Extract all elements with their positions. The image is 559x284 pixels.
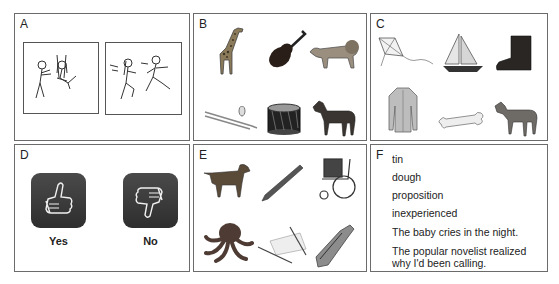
goat-icon xyxy=(493,100,541,140)
running-scene-picture xyxy=(105,42,182,115)
swing-scene-icon xyxy=(24,43,98,113)
swing-scene-picture xyxy=(23,42,99,114)
stimulus-word: proposition xyxy=(392,189,443,201)
trombone-icon xyxy=(202,106,262,132)
stimulus-sentence: The baby cries in the night. xyxy=(392,226,518,238)
hammock-icon xyxy=(256,225,312,265)
stimulus-word: inexperienced xyxy=(392,207,457,219)
panel-e: E xyxy=(193,144,367,272)
thumbs-down-button[interactable] xyxy=(123,173,178,228)
panel-letter: E xyxy=(199,148,207,162)
boot-icon xyxy=(493,34,535,78)
panel-a: A xyxy=(14,13,190,141)
panel-b: B xyxy=(193,13,367,141)
panel-letter: B xyxy=(199,17,207,31)
stimulus-word: dough xyxy=(392,171,421,183)
no-label: No xyxy=(123,235,178,247)
horse-icon xyxy=(309,99,359,139)
yes-label: Yes xyxy=(31,235,86,247)
panel-letter: F xyxy=(376,148,383,162)
panel-letter: C xyxy=(376,17,385,31)
kite-icon xyxy=(377,36,435,72)
panel-letter: D xyxy=(20,148,29,162)
panel-d: D Yes No xyxy=(14,144,190,272)
panel-letter: A xyxy=(20,17,28,31)
octopus-icon xyxy=(202,219,254,265)
coat-icon xyxy=(387,86,419,134)
thumbs-down-icon xyxy=(123,173,178,228)
violin-icon xyxy=(262,28,308,72)
lion-icon xyxy=(306,32,362,72)
thumbs-up-icon xyxy=(31,173,86,228)
escalator-icon xyxy=(314,223,358,269)
bone-icon xyxy=(437,110,485,132)
giraffe-icon xyxy=(212,24,248,80)
stimulus-word: tin xyxy=(392,153,403,165)
thumbs-up-button[interactable] xyxy=(31,173,86,228)
dog-icon xyxy=(202,161,252,201)
stimulus-sentence: The popular novelist realized xyxy=(392,245,526,257)
panel-c: C xyxy=(370,13,548,141)
running-scene-icon xyxy=(106,43,181,114)
wheelchair-icon xyxy=(314,155,360,203)
panel-f: F tin dough proposition inexperienced Th… xyxy=(370,144,548,272)
sailboat-icon xyxy=(441,32,487,78)
stimulus-sentence-continued: why I'd been calling. xyxy=(392,257,486,269)
pencil-icon xyxy=(260,163,304,203)
drum-icon xyxy=(266,102,302,136)
